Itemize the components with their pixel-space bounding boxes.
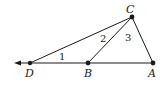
triangle-diagram: C D B A 1 2 3 [0, 0, 166, 86]
label-b: B [83, 67, 92, 80]
arrow-left-icon [14, 61, 21, 66]
label-d: D [24, 67, 34, 80]
segment-ca [132, 17, 153, 63]
label-c: C [126, 3, 135, 16]
point-b [86, 61, 91, 66]
angle-label-1: 1 [59, 51, 65, 62]
point-d [28, 61, 32, 65]
angle-label-3: 3 [125, 32, 131, 43]
label-a: A [147, 67, 156, 80]
segment-dc [30, 17, 132, 63]
point-a [151, 61, 156, 66]
angle-label-2: 2 [100, 33, 106, 44]
